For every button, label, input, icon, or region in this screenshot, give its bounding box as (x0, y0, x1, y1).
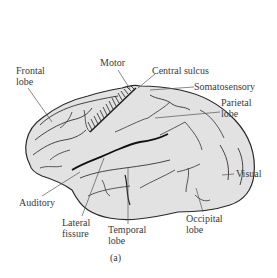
parietal-line1: Parietal (221, 98, 252, 109)
frontal-line2: lobe (16, 77, 45, 88)
parietal-line2: lobe (221, 109, 252, 120)
lateral-line1: Lateral (62, 218, 90, 229)
parietal-lobe-label: Parietal lobe (221, 98, 252, 119)
leader-motor (118, 70, 130, 89)
lateral-line2: fissure (62, 229, 90, 240)
motor-label: Motor (100, 58, 125, 69)
frontal-line1: Frontal (16, 66, 45, 77)
somatosensory-label: Somatosensory (194, 82, 255, 93)
brain-diagram: Frontal lobe Motor Central sulcus Somato… (0, 0, 277, 278)
visual-label: Visual (236, 169, 262, 180)
auditory-label: Auditory (19, 198, 55, 209)
temporal-lobe-label: Temporal lobe (108, 225, 146, 246)
central-sulcus-label: Central sulcus (152, 66, 209, 77)
occipital-lobe-label: Occipital lobe (186, 214, 223, 235)
temporal-line1: Temporal (108, 225, 146, 236)
lateral-fissure-label: Lateral fissure (62, 218, 90, 239)
occipital-line2: lobe (186, 225, 223, 236)
frontal-lobe-label: Frontal lobe (16, 66, 45, 87)
temporal-line2: lobe (108, 236, 146, 247)
occipital-line1: Occipital (186, 214, 223, 225)
leader-frontal (28, 88, 52, 122)
figure-caption: (a) (110, 253, 121, 264)
